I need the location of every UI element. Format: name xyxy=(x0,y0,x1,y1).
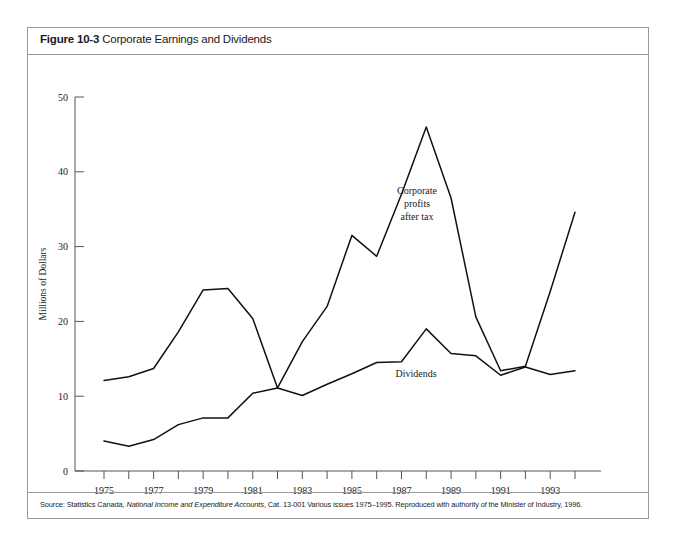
source-prefix: Source: Statistics Canada, xyxy=(40,500,126,509)
annotation-line-2: profits xyxy=(404,198,430,209)
series-line-corporate-profits xyxy=(104,127,575,388)
y-tick-label: 30 xyxy=(58,241,68,252)
y-tick-label: 40 xyxy=(58,166,68,177)
figure-title-text: Corporate Earnings and Dividends xyxy=(102,33,271,45)
series-line-dividends xyxy=(104,329,575,446)
page-title: Figure 10-3 Corporate Earnings and Divid… xyxy=(40,33,272,45)
annotation-line-3: after tax xyxy=(400,211,433,222)
chart-axes xyxy=(75,97,601,471)
figure-card: Figure 10-3 Corporate Earnings and Divid… xyxy=(27,27,649,519)
figure-number: Figure 10-3 xyxy=(40,33,99,45)
annotation-line-1: Corporate xyxy=(397,185,438,196)
line-chart: 01020304050 1975197619771978197919801981… xyxy=(28,55,648,494)
source-note: Source: Statistics Canada, National Inco… xyxy=(40,500,582,509)
figure-title-bar: Figure 10-3 Corporate Earnings and Divid… xyxy=(28,28,648,55)
y-tick-label: 50 xyxy=(58,92,68,103)
y-axis-ticks xyxy=(75,97,84,471)
annotation-dividends: Dividends xyxy=(395,368,436,379)
y-tick-label: 10 xyxy=(58,391,68,402)
y-tick-label: 0 xyxy=(63,466,68,477)
y-axis-title: Millions of Dollars xyxy=(38,247,48,320)
chart-plot-area: 01020304050 1975197619771978197919801981… xyxy=(28,55,648,492)
x-axis-ticks xyxy=(104,471,575,479)
y-axis-tick-labels: 01020304050 xyxy=(58,92,68,477)
source-suffix: , Cat. 13-001 Various issues 1975–1995. … xyxy=(264,500,582,509)
y-tick-label: 20 xyxy=(58,316,68,327)
figure-source-bar: Source: Statistics Canada, National Inco… xyxy=(28,492,648,518)
annotation-corporate-profits: Corporate profits after tax xyxy=(397,185,438,222)
source-publication: National Income and Expenditure Accounts xyxy=(126,500,263,509)
